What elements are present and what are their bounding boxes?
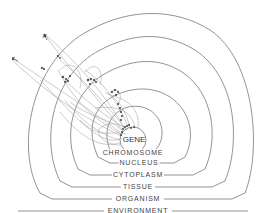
environment-label: ENVIRONMENT [107,207,170,213]
chromosome-label: CHROMOSOME [102,149,165,157]
cytoplasm-label: CYTOPLASM [112,171,164,179]
nested-levels-diagram: GENE CHROMOSOME NUCLEUS CYTOPLASM TISSUE… [0,0,257,213]
nucleus-label: NUCLEUS [118,159,159,167]
gene-label: GENE [123,135,146,144]
tissue-label: TISSUE [122,183,154,191]
diagram-lines [0,0,257,213]
organism-label: ORGANISM [115,195,162,203]
